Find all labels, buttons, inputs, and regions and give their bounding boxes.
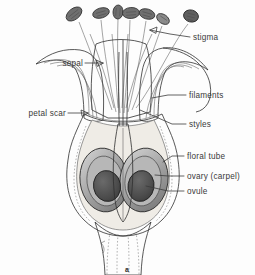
anther-1 bbox=[64, 4, 85, 24]
filaments-group bbox=[79, 19, 188, 113]
label-petal-scar: petal scar bbox=[29, 109, 67, 118]
label-ovule: ovule bbox=[187, 187, 208, 196]
label-ovary-carpel: ovary (carpel) bbox=[187, 172, 240, 181]
figure-caption: a bbox=[125, 266, 129, 273]
anther-2 bbox=[91, 6, 110, 20]
anther-7 bbox=[182, 8, 199, 23]
receptacle-core bbox=[91, 40, 151, 119]
anther-4 bbox=[122, 7, 140, 19]
label-styles: styles bbox=[189, 120, 211, 129]
stamens-group bbox=[64, 4, 200, 113]
anther-5 bbox=[138, 7, 156, 21]
label-filaments: filaments bbox=[189, 91, 224, 100]
anther-6 bbox=[155, 11, 172, 26]
anther-3 bbox=[113, 5, 124, 20]
label-sepal: sepal bbox=[62, 59, 83, 68]
label-floral-tube: floral tube bbox=[187, 152, 225, 161]
flower-anatomy-illustration: stigma sepal filaments petal scar styles… bbox=[0, 0, 255, 275]
anthers-group bbox=[64, 4, 200, 27]
label-stigma: stigma bbox=[193, 33, 219, 42]
leader-filaments bbox=[152, 95, 186, 98]
flower-diagram-figure: stigma sepal filaments petal scar styles… bbox=[0, 0, 255, 275]
